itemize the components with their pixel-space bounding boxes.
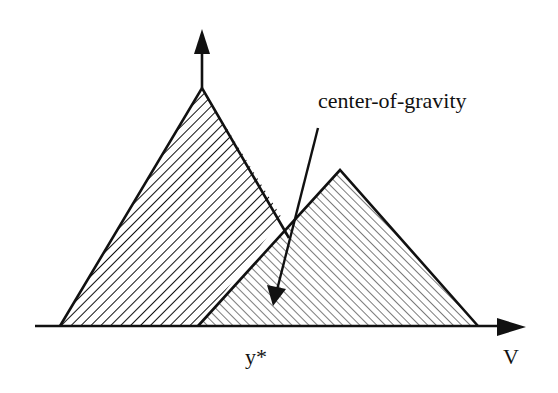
- cog-diagram: center-of-gravity y* V: [0, 0, 558, 393]
- output-value-label: y*: [245, 344, 267, 369]
- y-axis-arrowhead-icon: [194, 29, 210, 54]
- axis-label: V: [503, 344, 519, 369]
- x-axis-arrowhead-icon: [497, 318, 526, 336]
- cog-annotation-label: center-of-gravity: [318, 88, 467, 113]
